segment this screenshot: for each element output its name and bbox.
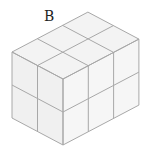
cube-block-figure (0, 0, 149, 151)
figure-label: B (44, 8, 54, 24)
